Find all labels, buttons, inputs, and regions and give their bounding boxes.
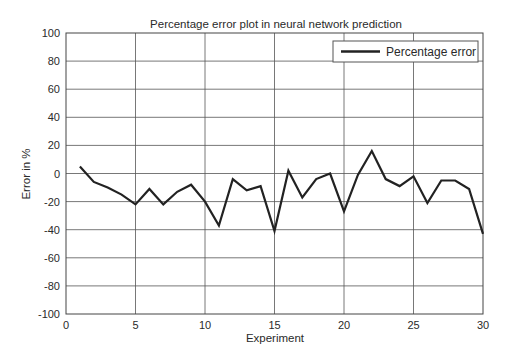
y-tick-label: -20 — [44, 196, 60, 208]
line-chart: Percentage error plot in neural network … — [0, 0, 510, 358]
grid-lines — [66, 33, 483, 314]
y-tick-label: 20 — [48, 139, 60, 151]
x-tick-label: 20 — [338, 319, 350, 331]
y-tick-label: -100 — [38, 308, 60, 320]
x-axis-label: Experiment — [246, 332, 305, 344]
x-tick-label: 30 — [477, 319, 489, 331]
x-tick-label: 25 — [407, 319, 419, 331]
y-tick-label: 100 — [42, 27, 60, 39]
x-axis-ticks: 051015202530 — [63, 319, 489, 331]
y-tick-label: 0 — [54, 168, 60, 180]
legend-label: Percentage error — [386, 45, 476, 59]
y-axis-ticks: -100-80-60-40-20020406080100 — [38, 27, 60, 320]
x-tick-label: 10 — [199, 319, 211, 331]
y-tick-label: 80 — [48, 55, 60, 67]
series-line-percentage-error — [80, 151, 483, 234]
y-tick-label: -60 — [44, 252, 60, 264]
legend: Percentage error — [333, 41, 478, 62]
y-tick-label: 40 — [48, 111, 60, 123]
x-tick-label: 0 — [63, 319, 69, 331]
y-axis-label: Error in % — [20, 148, 32, 199]
y-tick-label: -80 — [44, 280, 60, 292]
x-tick-label: 5 — [132, 319, 138, 331]
y-tick-label: 60 — [48, 83, 60, 95]
x-tick-label: 15 — [268, 319, 280, 331]
y-tick-label: -40 — [44, 224, 60, 236]
chart-title: Percentage error plot in neural network … — [150, 18, 402, 30]
chart-container: Percentage error plot in neural network … — [0, 0, 510, 358]
